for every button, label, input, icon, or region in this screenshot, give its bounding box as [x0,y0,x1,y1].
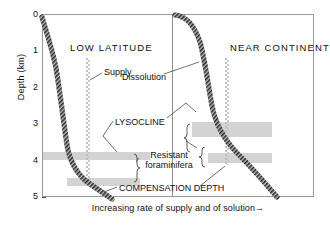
y-tick-mark-5 [42,197,46,198]
label-resistant-foraminifera: Resistant foraminifera [140,150,198,170]
y-tick-label-5: 5 [24,191,38,201]
y-tick-label-0: 0 [24,9,38,19]
label-dissolution: Dissolution [122,72,166,82]
x-axis-label-text: Increasing rate of supply and of solutio… [92,203,255,213]
label-resistant-line1: Resistant [150,150,188,160]
panel-header-near-continent: NEAR CONTINENT [230,42,330,53]
band-right-lysocline [192,122,272,137]
y-tick-label-3: 3 [24,118,38,128]
y-tick-label-1: 1 [24,45,38,55]
panel-header-low-latitude: LOW LATITUDE [70,42,153,53]
label-compensation-depth: COMPENSATION DEPTH [119,183,224,193]
arrow-right-icon: → [255,203,264,213]
band-right-compensation [208,153,272,163]
label-resistant-line2: foraminifera [145,160,193,170]
label-lysocline: LYSOCLINE [115,117,165,127]
x-axis-label: Increasing rate of supply and of solutio… [42,203,314,213]
supply-line-left [86,58,90,185]
band-left-lysocline [43,152,150,160]
supply-line-right [225,58,229,165]
y-tick-label-4: 4 [24,155,38,165]
y-tick-label-2: 2 [24,82,38,92]
